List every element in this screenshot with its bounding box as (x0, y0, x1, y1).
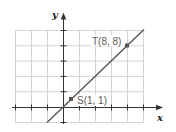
coordinate-plane-figure: x y T(8, 8) S(1, 1) (0, 0, 176, 132)
point-t-marker (125, 44, 129, 48)
point-s-label: S(1, 1) (77, 95, 107, 106)
coordinate-plane-svg: x y T(8, 8) S(1, 1) (0, 0, 176, 132)
x-axis-label: x (156, 112, 164, 123)
y-axis-label: y (51, 9, 59, 20)
point-t-label: T(8, 8) (92, 36, 121, 47)
point-s-marker (69, 97, 73, 101)
x-axis: x (12, 105, 164, 124)
y-axis-arrow-icon (61, 13, 66, 20)
x-axis-arrow-icon (156, 105, 163, 110)
